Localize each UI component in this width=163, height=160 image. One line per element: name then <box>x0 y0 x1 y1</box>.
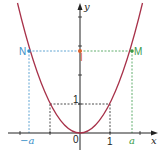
label-x-one: 1 <box>107 136 113 147</box>
parabola-diagram: N M I y x 0 1 1 a −a <box>0 0 163 160</box>
point-n <box>27 49 31 53</box>
label-n: N <box>19 46 26 57</box>
label-origin: 0 <box>73 134 79 145</box>
label-m: M <box>134 46 142 57</box>
label-a: a <box>129 135 135 146</box>
label-y-axis: y <box>83 1 90 12</box>
n-guides <box>29 51 80 133</box>
label-i: I <box>80 52 83 63</box>
label-y-one: 1 <box>73 94 79 105</box>
label-neg-a: −a <box>20 135 34 146</box>
axes <box>8 3 158 150</box>
label-x-axis: x <box>151 135 157 146</box>
m-guides <box>80 51 132 133</box>
